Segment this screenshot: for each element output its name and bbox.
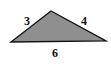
side-label-base: 6 [52, 46, 58, 60]
side-label-left: 3 [24, 14, 30, 28]
side-label-right: 4 [81, 14, 87, 28]
triangle-diagram: 3 4 6 [0, 0, 111, 75]
